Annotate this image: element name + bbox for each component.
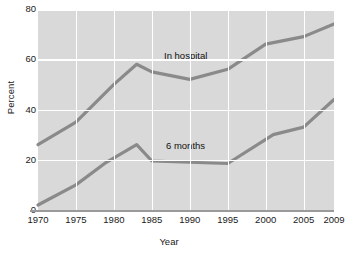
horizontal-gridline <box>38 160 334 162</box>
vertical-gridline <box>228 9 230 210</box>
x-axis-tick-labels: 197019751980198519901995200020052009 <box>0 214 338 228</box>
vertical-gridline <box>114 9 116 210</box>
x-axis-line <box>30 210 334 212</box>
vertical-gridline <box>190 9 192 210</box>
x-tick-label: 2000 <box>255 214 276 225</box>
vertical-gridline <box>266 9 268 210</box>
x-axis-title: Year <box>0 236 338 247</box>
series-line <box>38 24 334 145</box>
vertical-gridline <box>152 9 154 210</box>
y-tick-label: 80 <box>14 4 36 14</box>
vertical-gridline <box>304 9 306 210</box>
horizontal-gridline <box>38 110 334 112</box>
x-tick-label: 1995 <box>217 214 238 225</box>
horizontal-gridline <box>38 59 334 61</box>
plot-area: In hospital 6 months <box>38 9 334 210</box>
vertical-gridline <box>334 9 336 210</box>
x-tick-label: 1980 <box>103 214 124 225</box>
y-tick-label: 20 <box>14 155 36 165</box>
horizontal-gridline <box>38 9 334 11</box>
series-label-6-months: 6 months <box>166 140 205 151</box>
x-tick-label: 1970 <box>27 214 48 225</box>
x-tick-label: 1985 <box>141 214 162 225</box>
x-tick-label: 2009 <box>323 214 344 225</box>
x-tick-label: 2005 <box>293 214 314 225</box>
vertical-gridline <box>76 9 78 210</box>
y-tick-label: 40 <box>14 105 36 115</box>
y-tick-label: 60 <box>14 54 36 64</box>
x-tick-label: 1990 <box>179 214 200 225</box>
x-tick-label: 1975 <box>65 214 86 225</box>
